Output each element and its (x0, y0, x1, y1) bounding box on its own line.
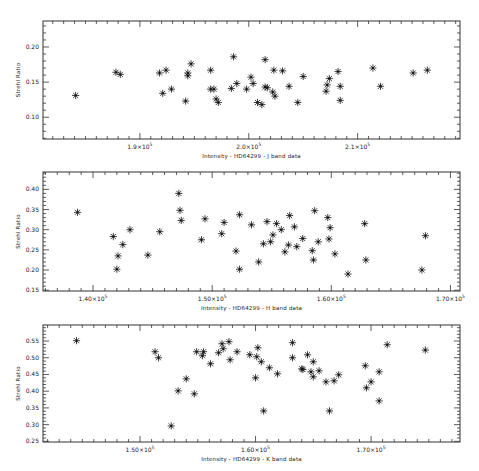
y-tick-label: 0.15 (26, 286, 40, 293)
x-tick-label: 2.1×105 (345, 142, 370, 150)
data-point-asterisk-icon (215, 99, 222, 106)
plot-frame (43, 21, 460, 139)
data-point-asterisk-icon (422, 346, 429, 353)
data-point-asterisk-icon (119, 241, 126, 248)
data-point-asterisk-icon (168, 422, 175, 429)
data-point-asterisk-icon (326, 407, 333, 414)
data-point-asterisk-icon (247, 74, 254, 81)
data-point-asterisk-icon (246, 351, 253, 358)
data-point-asterisk-icon (187, 60, 194, 67)
data-point-asterisk-icon (300, 73, 307, 80)
data-point-asterisk-icon (310, 358, 317, 365)
data-point-asterisk-icon (311, 207, 318, 214)
y-tick-label: 0.15 (26, 78, 40, 85)
data-point-asterisk-icon (233, 80, 240, 87)
data-point-asterisk-icon (263, 218, 270, 225)
data-point-asterisk-icon (178, 217, 185, 224)
data-point-asterisk-icon (384, 341, 391, 348)
data-point-asterisk-icon (156, 228, 163, 235)
x-axis-title: Intensity - HD64299 - K band data (201, 456, 302, 463)
data-point-asterisk-icon (285, 241, 292, 248)
data-point-asterisk-icon (207, 360, 214, 367)
y-tick-label: 0.10 (26, 113, 40, 120)
panel-k-band: 0.250.300.350.400.450.500.551.50×1051.60… (0, 320, 479, 471)
data-point-asterisk-icon (255, 258, 262, 265)
y-tick-label: 0.40 (26, 387, 40, 394)
data-point-asterisk-icon (274, 370, 281, 377)
y-tick-label: 0.20 (26, 43, 40, 50)
x-tick-label: 1.60×105 (317, 294, 346, 302)
data-point-asterisk-icon (233, 348, 240, 355)
data-point-asterisk-icon (232, 247, 239, 254)
data-point-asterisk-icon (220, 219, 227, 226)
y-axis-title: Strehl Ratio (15, 366, 21, 401)
data-point-asterisk-icon (424, 67, 431, 74)
data-point-asterisk-icon (324, 81, 331, 88)
y-tick-label: 0.20 (26, 266, 40, 273)
data-point-asterisk-icon (310, 373, 317, 380)
data-point-asterisk-icon (279, 67, 286, 74)
data-point-asterisk-icon (248, 221, 255, 228)
data-point-asterisk-icon (156, 69, 163, 76)
data-point-asterisk-icon (304, 351, 311, 358)
data-point-asterisk-icon (330, 377, 337, 384)
data-point-asterisk-icon (286, 212, 293, 219)
data-point-asterisk-icon (243, 86, 250, 93)
y-axis-title: Strehl Ratio (15, 214, 21, 249)
data-point-asterisk-icon (193, 348, 200, 355)
data-point-asterisk-icon (362, 362, 369, 369)
data-point-asterisk-icon (377, 83, 384, 90)
data-point-asterisk-icon (159, 90, 166, 97)
data-point-asterisk-icon (144, 251, 151, 258)
data-point-asterisk-icon (376, 368, 383, 375)
data-point-asterisk-icon (327, 224, 334, 231)
data-point-asterisk-icon (363, 384, 370, 391)
data-point-asterisk-icon (218, 340, 225, 347)
data-point-asterisk-icon (369, 64, 376, 71)
plot-frame (43, 172, 460, 291)
data-point-asterisk-icon (110, 233, 117, 240)
y-tick-label: 0.55 (26, 337, 40, 344)
data-point-asterisk-icon (315, 238, 322, 245)
data-point-asterisk-icon (422, 232, 429, 239)
y-tick-label: 0.25 (26, 246, 40, 253)
data-point-asterisk-icon (322, 378, 329, 385)
data-point-asterisk-icon (285, 83, 292, 90)
data-point-asterisk-icon (410, 69, 417, 76)
data-point-asterisk-icon (117, 71, 124, 78)
data-point-asterisk-icon (254, 344, 261, 351)
x-axis-title: Intensity - HD64299 - H band data (201, 305, 302, 312)
data-point-asterisk-icon (176, 207, 183, 214)
data-point-asterisk-icon (184, 72, 191, 79)
data-point-asterisk-icon (258, 358, 265, 365)
data-point-asterisk-icon (262, 56, 269, 63)
data-point-asterisk-icon (278, 226, 285, 233)
data-point-asterisk-icon (299, 235, 306, 242)
scatter-plot-h-band: 0.150.200.250.300.350.401.40×1051.50×105… (0, 160, 479, 320)
y-tick-label: 0.50 (26, 354, 40, 361)
y-axis-title: Strehl Ratio (15, 62, 21, 97)
data-point-asterisk-icon (236, 266, 243, 273)
y-tick-label: 0.35 (26, 206, 40, 213)
data-point-asterisk-icon (335, 371, 342, 378)
x-tick-label: 1.50×105 (126, 445, 155, 453)
data-point-asterisk-icon (271, 93, 278, 100)
data-point-asterisk-icon (334, 68, 341, 75)
x-tick-label: 1.40×105 (79, 294, 108, 302)
data-point-asterisk-icon (331, 250, 338, 257)
data-point-asterisk-icon (293, 243, 300, 250)
data-point-asterisk-icon (260, 407, 267, 414)
data-point-asterisk-icon (361, 220, 368, 227)
data-point-asterisk-icon (230, 53, 237, 60)
plot-frame (43, 325, 460, 442)
panel-h-band: 0.150.200.250.300.350.401.40×1051.50×105… (0, 160, 479, 320)
data-point-asterisk-icon (258, 101, 265, 108)
data-point-asterisk-icon (113, 266, 120, 273)
y-tick-label: 0.40 (26, 185, 40, 192)
data-point-asterisk-icon (114, 252, 121, 259)
data-point-asterisk-icon (252, 374, 259, 381)
data-point-asterisk-icon (289, 339, 296, 346)
data-point-asterisk-icon (344, 270, 351, 277)
data-point-asterisk-icon (207, 67, 214, 74)
data-point-asterisk-icon (264, 84, 271, 91)
